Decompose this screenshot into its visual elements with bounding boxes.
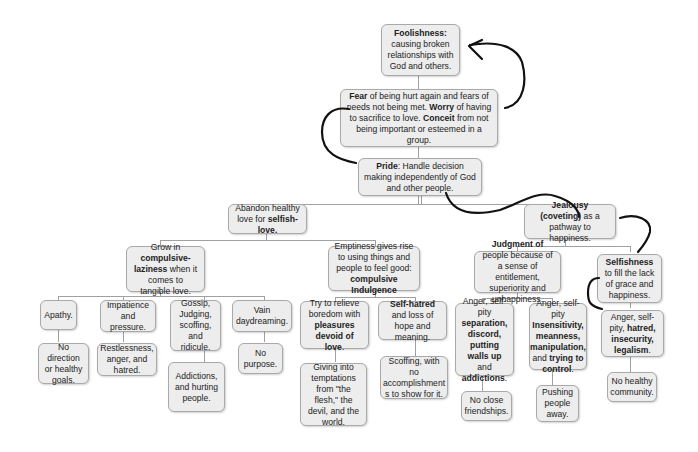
node-text: Jealousy (coveting) as a pathway to happ… <box>530 200 610 244</box>
emphasis-text: separation, discord, putting walls up <box>462 318 508 361</box>
emphasis-text: Jealousy (coveting) <box>540 200 588 221</box>
connector <box>123 332 124 342</box>
node-restlessness: Restlessness, anger, and hatred. <box>97 343 157 376</box>
node-fear: Fear of being hurt again and fears of ne… <box>340 89 498 147</box>
node-addictions: Addictions, and hurting people. <box>168 362 225 412</box>
node-emptiness: Emptiness gives rise to using things and… <box>328 246 420 291</box>
node-text: Scoffing, with no accomplishment s to sh… <box>383 356 445 400</box>
emphasis-text: Conceit <box>423 113 455 123</box>
node-text: Giving into temptations from "the flesh,… <box>306 362 361 428</box>
emphasis-text: pleasures devoid of love <box>314 320 354 352</box>
connector <box>630 357 631 372</box>
node-pushing: Pushing people away. <box>536 385 579 422</box>
node-anger1: Anger, self-pity separation, discord, pu… <box>455 303 514 376</box>
emphasis-text: Fear <box>349 91 367 101</box>
node-text: No healthy community. <box>610 376 653 398</box>
node-text: Emptiness gives rise to using things and… <box>334 241 414 296</box>
node-abandon: Abandon healthy love for selfish-love. <box>228 204 307 234</box>
node-community: No healthy community. <box>607 372 657 402</box>
node-nopurpose: No purpose. <box>238 343 283 374</box>
emphasis-text: Insensitivity, meanness, manipulation, <box>530 320 586 352</box>
node-foolishness-text: Foolishness: causing broken relationship… <box>387 28 454 72</box>
emphasis-text: Selfishness <box>606 257 654 267</box>
node-fear-text: Fear of being hurt again and fears of ne… <box>346 91 492 146</box>
node-laziness: Grow in compulsive-laziness when it come… <box>126 246 205 292</box>
node-vain: Vain daydreaming. <box>232 300 292 332</box>
node-text: No close friendships. <box>465 395 509 417</box>
node-apathy: Apathy. <box>40 300 77 330</box>
emphasis-text: compulsive-laziness <box>134 253 191 274</box>
node-temptations: Giving into temptations from "the flesh,… <box>300 363 367 426</box>
node-text: No purpose. <box>244 348 277 370</box>
connector <box>630 246 631 252</box>
node-selfishness: Selfishness to fill the lack of grace an… <box>597 254 662 303</box>
node-text: Anger, self-pity, hatred, insecurity, le… <box>607 312 658 356</box>
node-text: Apathy. <box>44 310 73 321</box>
emphasis-text: Foolishness: <box>394 28 447 38</box>
emphasis-text: Pride <box>376 161 398 171</box>
node-pride: Pride: Handle decision making independen… <box>358 158 482 196</box>
connector <box>264 332 265 342</box>
emphasis-text: Judgment of <box>492 239 544 249</box>
emphasis-text: trying to control <box>542 353 583 374</box>
node-text: Pushing people away. <box>542 387 573 420</box>
arrowhead-icon <box>469 40 482 59</box>
node-foolishness: Foolishness: causing broken relationship… <box>381 24 460 76</box>
emphasis-text: addictions <box>462 373 505 383</box>
emphasis-text: Self-hatred <box>390 299 435 309</box>
node-text: Gossip, Judging, scoffing, and ridicule. <box>176 298 215 353</box>
node-text: Anger, self-pity separation, discord, pu… <box>461 296 508 384</box>
node-nodirection: No direction or healthy goals. <box>38 343 89 384</box>
node-text: Restlessness, anger, and hatred. <box>100 343 154 376</box>
node-text: Vain daydreaming. <box>236 305 288 327</box>
node-anger2: Anger, self-pity Insensitivity, meanness… <box>529 303 587 370</box>
emphasis-text: hatred, insecurity, legalism <box>611 323 655 355</box>
emphasis-text: selfish-love. <box>258 214 298 235</box>
node-scoffing: Scoffing, with no accomplishment s to sh… <box>380 356 448 399</box>
node-text: Grow in compulsive-laziness when it come… <box>132 242 199 297</box>
node-text: No direction or healthy goals. <box>44 342 83 386</box>
node-impatience: Impatience and pressure. <box>100 300 156 332</box>
node-selfhatred: Self-hatred and loss of hope and meaning… <box>378 301 447 340</box>
emphasis-text: compulsive Indulgence <box>350 274 397 295</box>
node-closefriends: No close friendships. <box>461 391 512 421</box>
node-text: Impatience and pressure. <box>106 300 150 333</box>
node-text: Self-hatred and loss of hope and meaning… <box>384 299 441 343</box>
node-text: Try to relieve boredom with pleasures de… <box>306 298 363 353</box>
connector <box>418 75 419 89</box>
node-jealousy: Jealousy (coveting) as a pathway to happ… <box>524 204 616 239</box>
node-text: Abandon healthy love for selfish-love. <box>234 203 301 236</box>
emphasis-text: Worry <box>429 102 454 112</box>
node-relieve: Try to relieve boredom with pleasures de… <box>300 301 369 349</box>
connector <box>58 330 59 342</box>
connector <box>421 195 422 204</box>
node-text: Anger, self-pity Insensitivity, meanness… <box>530 298 586 375</box>
node-gossip: Gossip, Judging, scoffing, and ridicule. <box>170 300 221 351</box>
node-text: Addictions, and hurting people. <box>174 371 219 404</box>
node-judgment: Judgment of people because of a sense of… <box>474 251 561 293</box>
node-text: Selfishness to fill the lack of grace an… <box>603 257 656 301</box>
node-pride-text: Pride: Handle decision making independen… <box>364 161 476 194</box>
connector <box>418 195 419 204</box>
node-anger3: Anger, self-pity, hatred, insecurity, le… <box>601 310 664 357</box>
